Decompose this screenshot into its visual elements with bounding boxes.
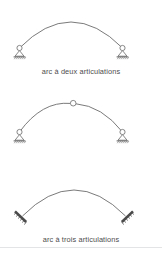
support-left-pin [14,45,26,59]
support-triangle-icon [15,51,24,57]
arch-curve [20,22,123,48]
fixed-arch-drawing [0,170,162,232]
support-hatching-icon [14,57,26,59]
arch-curve-right-segment [76,104,123,132]
figure-sheet: arc à deux articulations [0,0,162,254]
support-hatching-icon [117,57,129,59]
support-left-pin [14,129,26,143]
hinge-circle-icon [17,45,22,50]
arch-curve [23,190,126,216]
support-triangle-icon [118,51,127,57]
three-hinged-arch-drawing [0,84,162,150]
support-hatching-icon [117,141,129,143]
hinge-circle-icon [120,45,125,50]
two-hinged-arch-drawing [0,0,162,66]
diagram-two-hinged-arch: arc à deux articulations [0,0,162,84]
support-triangle-icon [15,135,24,141]
diagram-three-hinged-arch: arc à trois articulations [0,84,162,168]
crown-hinge-circle-icon [70,100,76,106]
hinge-circle-icon [120,129,125,134]
arch-curve-left-segment [20,103,71,132]
caption-two-hinged-arch: arc à deux articulations [0,67,162,76]
support-hatching-icon [14,141,26,143]
support-right-pin [117,129,129,143]
support-triangle-icon [118,135,127,141]
diagram-fixed-arch: arc encastré [0,170,162,248]
support-right-pin [117,45,129,59]
hinge-circle-icon [17,129,22,134]
bottom-divider [0,247,162,248]
